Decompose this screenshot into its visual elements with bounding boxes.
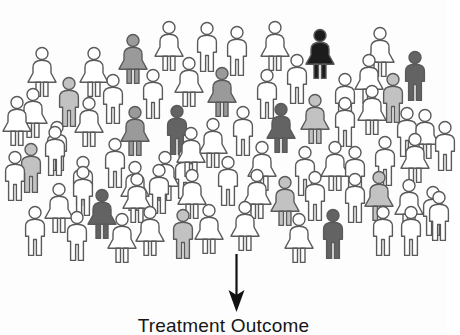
person-icon-male-dark-gray — [318, 208, 348, 260]
person-icon-male-white — [396, 205, 426, 257]
person-icon-female-white — [172, 56, 206, 108]
person-icon-female-white — [133, 205, 167, 257]
downward-arrow-icon — [214, 252, 259, 314]
person-icon-male-white — [62, 210, 92, 262]
outcome-label: Treatment Outcome — [0, 316, 447, 335]
person-icon-female-white — [228, 200, 262, 252]
person-icon-male-white — [368, 205, 398, 257]
person-icon-female-white — [0, 95, 34, 147]
person-icon-female-white — [282, 212, 316, 264]
person-icon-male-white — [424, 190, 454, 242]
person-icon-male-white — [40, 125, 70, 177]
person-icon-female-white — [398, 132, 432, 184]
person-icon-female-white — [192, 203, 226, 255]
person-icon-female-white — [355, 84, 389, 136]
person-icon-male-white — [430, 120, 460, 172]
person-icon-female-light-gray — [298, 93, 332, 145]
population-pictogram-panel — [0, 0, 447, 258]
person-icon-male-white — [0, 150, 30, 202]
person-icon-male-white — [20, 205, 50, 257]
